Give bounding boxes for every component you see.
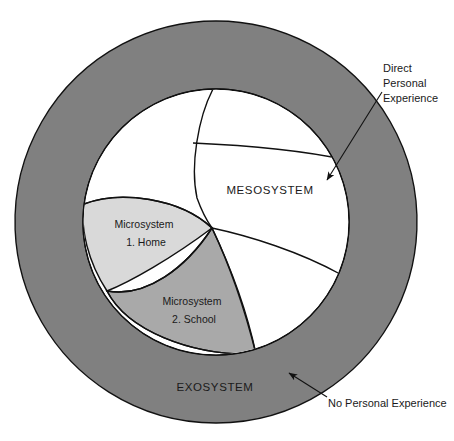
mesosystem-label: MESOSYSTEM: [226, 184, 313, 196]
microsystem-home-label-line1: Microsystem: [115, 218, 174, 230]
callout-direct-line1: Direct: [383, 62, 412, 74]
ecological-systems-svg: MESOSYSTEM EXOSYSTEM Microsystem 1. Home…: [0, 0, 454, 441]
microsystem-school-label-line1: Microsystem: [163, 295, 222, 307]
callout-no-personal-line1: No Personal Experience: [328, 397, 447, 409]
exosystem-label: EXOSYSTEM: [177, 381, 254, 393]
ecological-systems-diagram: MESOSYSTEM EXOSYSTEM Microsystem 1. Home…: [0, 0, 454, 441]
callout-direct-line3: Experience: [383, 92, 438, 104]
callout-direct-line2: Personal: [383, 77, 426, 89]
microsystem-home-label-line2: 1. Home: [126, 236, 166, 248]
microsystem-school-label-line2: 2. School: [172, 313, 216, 325]
